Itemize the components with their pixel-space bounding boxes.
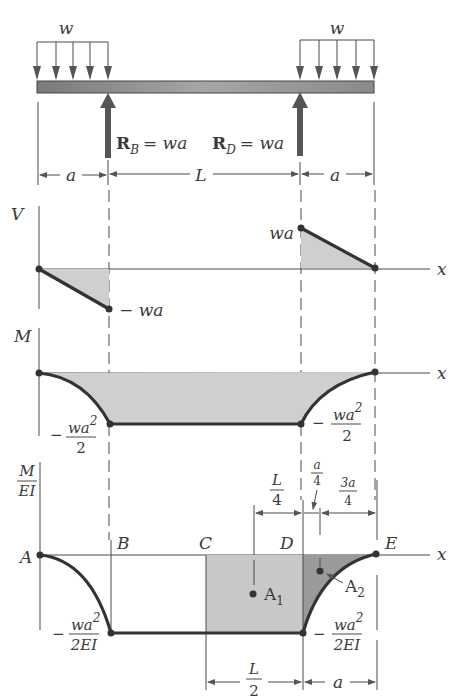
centroid-A2 bbox=[317, 568, 324, 575]
svg-text:M: M bbox=[18, 462, 35, 480]
svg-text:L: L bbox=[248, 660, 259, 678]
point-A-label: A bbox=[18, 547, 32, 567]
span-dimensions: a L a bbox=[38, 102, 374, 185]
svg-text:L: L bbox=[271, 471, 282, 489]
reaction-arrow-B bbox=[100, 93, 116, 158]
projection-lines bbox=[109, 190, 375, 540]
shear-x-label: x bbox=[437, 259, 447, 279]
beam-analysis-figure: w w bbox=[0, 0, 464, 699]
svg-text:−: − bbox=[52, 625, 65, 643]
svg-text:wa2: wa2 bbox=[334, 611, 363, 634]
svg-text:2: 2 bbox=[249, 682, 259, 699]
beam-section: w w bbox=[33, 18, 378, 185]
svg-text:a: a bbox=[313, 458, 320, 472]
load-label-left: w bbox=[59, 18, 74, 38]
shear-left-value: − wa bbox=[119, 300, 163, 320]
point-C-label: C bbox=[199, 533, 212, 553]
m-ei-left-value: − wa2 2EI bbox=[52, 611, 100, 654]
dim-left-a: a bbox=[66, 165, 76, 185]
moment-x-label: x bbox=[437, 363, 447, 383]
svg-text:4: 4 bbox=[313, 474, 321, 488]
m-ei-right-value: − wa2 2EI bbox=[313, 611, 363, 654]
shear-diagram: V x − wa wa bbox=[11, 204, 447, 320]
distributed-load-left: w bbox=[33, 18, 112, 80]
load-arrows-right bbox=[296, 40, 378, 80]
reaction-arrow-D bbox=[292, 92, 308, 156]
svg-text:EI: EI bbox=[18, 482, 37, 500]
moment-right-value: − wa2 2 bbox=[312, 401, 362, 445]
svg-text:3a: 3a bbox=[341, 476, 356, 490]
shear-right-value: wa bbox=[269, 223, 294, 243]
svg-text:−: − bbox=[50, 426, 63, 444]
shear-axis-label: V bbox=[11, 204, 25, 224]
load-arrows-left bbox=[33, 42, 112, 80]
svg-text:2: 2 bbox=[76, 439, 86, 457]
svg-text:−: − bbox=[312, 414, 325, 432]
m-ei-diagram: M EI x A B C D E A1 bbox=[17, 458, 447, 699]
point-E-label: E bbox=[384, 533, 398, 553]
svg-text:wa2: wa2 bbox=[68, 414, 97, 437]
svg-text:4: 4 bbox=[272, 491, 282, 509]
dim-right-a: a bbox=[330, 165, 340, 185]
svg-text:4: 4 bbox=[344, 494, 352, 508]
m-ei-x-label: x bbox=[437, 544, 447, 564]
svg-text:2EI: 2EI bbox=[333, 636, 361, 654]
m-ei-bottom-dimensions: L 2 a bbox=[208, 660, 375, 699]
svg-text:wa2: wa2 bbox=[71, 611, 100, 634]
moment-left-value: − wa2 2 bbox=[50, 414, 97, 457]
moment-diagram: M x − wa2 2 − wa2 2 bbox=[13, 326, 447, 457]
moment-axis-label: M bbox=[13, 326, 32, 346]
distributed-load-right: w bbox=[296, 18, 378, 80]
svg-text:wa2: wa2 bbox=[333, 401, 362, 424]
svg-text:2: 2 bbox=[342, 427, 352, 445]
svg-text:2EI: 2EI bbox=[70, 636, 98, 654]
beam-body bbox=[37, 81, 374, 93]
point-D-label: D bbox=[279, 533, 294, 553]
svg-text:a: a bbox=[333, 672, 343, 692]
reaction-D-label: RD= wa bbox=[212, 133, 284, 157]
dim-middle-L: L bbox=[194, 165, 206, 185]
m-ei-axis-label: M EI bbox=[17, 462, 37, 500]
area-A2-label: A2 bbox=[344, 576, 365, 600]
centroid-A1 bbox=[250, 591, 257, 598]
point-B-label: B bbox=[116, 533, 130, 553]
load-label-right: w bbox=[330, 18, 345, 38]
reaction-B-label: RB= wa bbox=[116, 133, 187, 157]
svg-text:−: − bbox=[313, 625, 326, 643]
m-ei-top-dimensions: L 4 a 4 3a 4 bbox=[256, 458, 375, 513]
